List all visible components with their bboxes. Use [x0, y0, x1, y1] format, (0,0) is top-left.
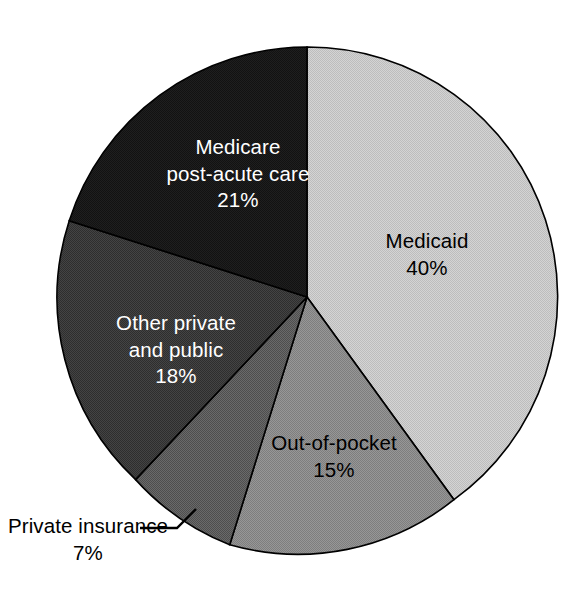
slice-label-other-name-line2: and public — [96, 337, 256, 364]
slice-label-private-insurance: Private insurance 7% — [2, 513, 174, 566]
slice-label-other-private-and-public: Other private and public 18% — [96, 310, 256, 390]
slice-label-other-name-line1: Other private — [96, 310, 256, 337]
slice-label-medicare-post-acute-care: Medicare post-acute care 21% — [140, 134, 336, 214]
pie-chart-figure: Medicaid 40% Medicare post-acute care 21… — [0, 0, 572, 589]
slice-label-out-of-pocket-value: 15% — [258, 457, 410, 484]
slice-label-private-insurance-value: 7% — [2, 540, 174, 567]
slice-label-medicaid-name: Medicaid — [352, 228, 502, 255]
slice-label-medicaid-value: 40% — [352, 255, 502, 282]
slice-label-other-value: 18% — [96, 363, 256, 390]
slice-label-private-insurance-name: Private insurance — [2, 513, 174, 540]
slice-label-out-of-pocket: Out-of-pocket 15% — [258, 430, 410, 483]
pie-chart-svg — [0, 0, 572, 589]
slice-label-medicare-value: 21% — [140, 187, 336, 214]
slice-label-medicare-name-line2: post-acute care — [140, 161, 336, 188]
slice-label-medicare-name-line1: Medicare — [140, 134, 336, 161]
slice-label-medicaid: Medicaid 40% — [352, 228, 502, 281]
slice-label-out-of-pocket-name: Out-of-pocket — [258, 430, 410, 457]
